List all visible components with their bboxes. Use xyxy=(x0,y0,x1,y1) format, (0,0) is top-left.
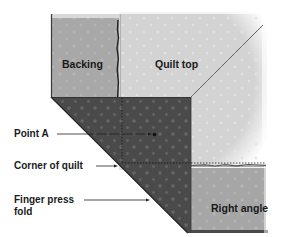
right-angle-label: Right angle xyxy=(211,202,268,214)
point-a-marker xyxy=(153,133,157,137)
finger-press-fold-arrow xyxy=(84,198,150,201)
corner-of-quilt-label: Corner of quilt xyxy=(14,160,83,172)
finger-press-fold-label-line2: fold xyxy=(14,206,32,218)
point-a-label: Point A xyxy=(14,128,49,140)
backing-label: Backing xyxy=(62,58,103,70)
finger-press-fold-label-line1: Finger press xyxy=(14,194,74,206)
backing-region xyxy=(51,8,121,98)
quilt-diagram: Backing Quilt top Point A Corner of quil… xyxy=(0,0,286,237)
right-angle-region xyxy=(191,165,276,234)
quilt-top-label: Quilt top xyxy=(155,58,198,70)
corner-of-quilt-arrow xyxy=(96,164,118,167)
